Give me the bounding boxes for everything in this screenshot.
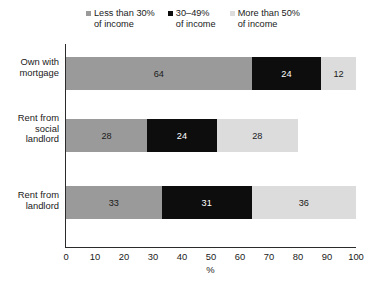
x-axis-tick-label: 90: [322, 251, 332, 262]
category-label-line: landlord: [0, 201, 59, 212]
bar-segment-less-than-30: 64: [66, 57, 252, 90]
legend-label-line1: 30–49%: [176, 8, 210, 18]
x-axis-tick-label: 100: [348, 251, 364, 262]
bar-segment-more-than-50: 28: [217, 119, 298, 152]
bar-row: 64 24 12: [66, 57, 356, 90]
category-label-own-with-mortgage: Own with mortgage: [0, 57, 59, 78]
category-label-line: Rent from: [0, 190, 59, 201]
legend-swatch-icon: [86, 11, 91, 16]
legend-item-label: Less than 30% of income: [94, 8, 155, 30]
legend-swatch-icon: [168, 11, 173, 16]
x-axis-tick-label: 40: [177, 251, 187, 262]
x-axis-tick-label: 70: [264, 251, 274, 262]
legend-item-30-to-49: 30–49% of income: [168, 8, 216, 30]
bar-segment-30-to-49: 24: [147, 119, 217, 152]
category-label-rent-from-social-landlord: Rent from social landlord: [0, 113, 59, 145]
bar-row: 33 31 36: [66, 186, 356, 219]
legend-label-line1: More than 50%: [238, 8, 300, 18]
bar-segment-30-to-49: 31: [162, 186, 252, 219]
category-label-rent-from-landlord: Rent from landlord: [0, 190, 59, 211]
bar-segment-more-than-50: 36: [252, 186, 356, 219]
legend-item-less-than-30: Less than 30% of income: [86, 8, 155, 30]
x-axis-tick-label: 20: [119, 251, 129, 262]
legend-label-line2: of income: [238, 19, 300, 30]
legend-item-label: More than 50% of income: [238, 8, 300, 30]
bar-segment-less-than-30: 28: [66, 119, 147, 152]
legend-swatch-icon: [230, 11, 235, 16]
legend-item-label: 30–49% of income: [176, 8, 216, 30]
x-axis-tick-label: 30: [148, 251, 158, 262]
x-axis-title: %: [65, 264, 356, 275]
legend-label-line1: Less than 30%: [94, 8, 155, 18]
legend-label-line2: of income: [176, 19, 216, 30]
bar-row: 28 24 28: [66, 119, 356, 152]
x-axis-tick-label: 60: [235, 251, 245, 262]
x-axis-tick-label: 50: [206, 251, 216, 262]
x-axis-tick-label: 0: [63, 251, 68, 262]
x-axis-ticks: 0102030405060708090100: [65, 251, 356, 263]
legend-label-line2: of income: [94, 19, 155, 30]
x-axis-line: [65, 247, 356, 248]
bar-segment-30-to-49: 24: [252, 57, 322, 90]
x-axis-tick-label: 10: [90, 251, 100, 262]
category-label-line: Own with: [0, 57, 59, 68]
legend-item-more-than-50: More than 50% of income: [230, 8, 300, 30]
bar-segment-more-than-50: 12: [321, 57, 356, 90]
category-label-line: Rent from: [0, 113, 59, 124]
category-label-line: mortgage: [0, 68, 59, 79]
bar-segment-less-than-30: 33: [66, 186, 162, 219]
x-axis-tick-label: 80: [293, 251, 303, 262]
chart-plot-area: 64 24 12 28 24 28 33 31 36: [65, 44, 356, 247]
chart-legend: Less than 30% of income 30–49% of income…: [86, 8, 364, 30]
category-label-line: landlord: [0, 134, 59, 145]
